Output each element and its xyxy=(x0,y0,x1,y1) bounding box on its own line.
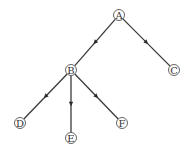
edge-b-d xyxy=(24,74,67,119)
node-label: A xyxy=(114,10,123,21)
edge-a-c xyxy=(123,19,170,66)
arrowhead-icon xyxy=(69,102,73,107)
edge-b-f xyxy=(75,74,118,119)
edges-layer xyxy=(24,19,170,133)
node-c: C xyxy=(169,65,180,77)
nodes-layer: ABCDEF xyxy=(15,10,180,145)
tree-diagram: ABCDEF xyxy=(0,0,190,161)
node-e: E xyxy=(66,133,77,145)
node-d: D xyxy=(15,118,26,130)
node-label: C xyxy=(170,65,178,76)
node-a: A xyxy=(114,10,125,22)
node-b: B xyxy=(66,65,77,77)
node-label: B xyxy=(67,65,74,76)
node-label: F xyxy=(119,118,126,129)
edge-a-b xyxy=(75,19,116,66)
node-label: D xyxy=(16,118,24,129)
edge-b-e xyxy=(69,76,73,133)
node-f: F xyxy=(117,118,128,130)
node-label: E xyxy=(67,133,74,144)
